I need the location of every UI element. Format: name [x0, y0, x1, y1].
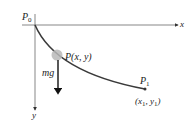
y-axis-label: y — [32, 111, 36, 120]
endpoint-coords: (x1, y1) — [135, 97, 161, 106]
ball-icon — [52, 50, 63, 61]
origin-label: P0 — [22, 12, 32, 22]
force-label: mg — [42, 68, 54, 78]
x-axis-label: x — [180, 20, 184, 29]
moving-point-label: P(x, y) — [65, 52, 92, 62]
endpoint-label: P1 — [140, 76, 150, 86]
